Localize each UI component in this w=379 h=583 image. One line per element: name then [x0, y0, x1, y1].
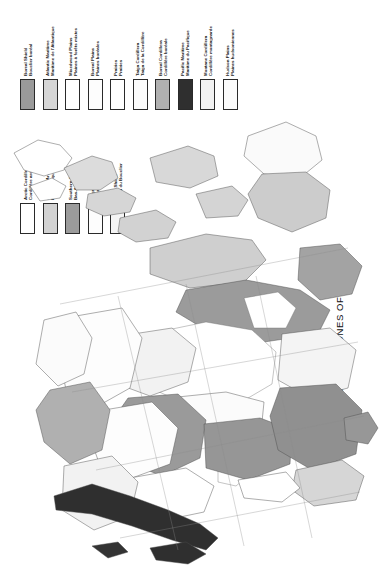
region-northern-arctic-isl-b — [86, 188, 136, 216]
arctic-archipelago-group — [14, 140, 266, 288]
legend-label: Boreal Plains Plaines boréales — [90, 4, 100, 76]
legend-item-montane-cordillera[interactable]: Montane Cordillera Cordillère montagnard… — [197, 4, 218, 110]
legend-label: Boreal Cordillera Cordillère boréale — [158, 4, 168, 76]
map-poster: Boreal Shield Bouclier boréal Atlantic M… — [0, 0, 379, 583]
legend-label: Taiga Cordillera Taïga de la Cordillère — [135, 4, 145, 76]
canada-ecozone-map — [0, 98, 379, 583]
region-pacific-maritime-haida — [92, 542, 128, 558]
region-northern-arctic-baffin — [248, 172, 330, 232]
region-northern-arctic-mainland — [150, 234, 266, 288]
legend-item-hudson-plains[interactable]: Hudson Plains Plaines hudsoniennes — [220, 4, 241, 110]
legend-item-taiga-cordillera[interactable]: Taiga Cordillera Taïga de la Cordillère — [130, 4, 151, 110]
region-northern-arctic-isl-e — [196, 186, 248, 218]
legend-item-boreal-shield[interactable]: Boreal Shield Bouclier boréal — [17, 4, 38, 110]
legend-item-pacific-maritime[interactable]: Pacific Maritime Maritime du Pacifique — [175, 4, 196, 110]
legend-label: Pacific Maritime Maritime du Pacifique — [180, 4, 190, 76]
legend-label: Mixedwood Plains Plaines à forêts mixtes — [68, 4, 78, 76]
legend-item-prairies[interactable]: Prairies Prairies — [107, 4, 128, 110]
region-northern-arctic-isl-c — [118, 210, 176, 242]
legend-label: Prairies Prairies — [113, 4, 123, 76]
legend-item-boreal-cordillera[interactable]: Boreal Cordillera Cordillère boréale — [152, 4, 173, 110]
legend-label: Boreal Shield Bouclier boréal — [23, 4, 33, 76]
legend-item-mixedwood-plains[interactable]: Mixedwood Plains Plaines à forêts mixtes — [62, 4, 83, 110]
region-newfoundland — [344, 412, 378, 444]
primary-ecozone-legend: Boreal Shield Bouclier boréal Atlantic M… — [17, 4, 242, 110]
region-atlantic-maritime — [292, 460, 364, 506]
legend-item-boreal-plains[interactable]: Boreal Plains Plaines boréales — [85, 4, 106, 110]
region-southern-arctic-east — [298, 244, 362, 300]
legend-label: Atlantic Maritime Maritime de l'Atlantiq… — [45, 4, 55, 76]
region-arctic-cordillera — [14, 140, 72, 176]
region-arctic-cordillera-2 — [30, 178, 66, 201]
eastern-arctic-group — [244, 122, 330, 232]
map-svg — [0, 98, 379, 583]
region-arctic-cordillera-baffin — [244, 122, 322, 178]
legend-label: Hudson Plains Plaines hudsoniennes — [225, 4, 235, 76]
region-northern-arctic-isl-a — [64, 156, 118, 190]
legend-item-atlantic-maritime[interactable]: Atlantic Maritime Maritime de l'Atlantiq… — [40, 4, 61, 110]
legend-label: Montane Cordillera Cordillère montagnard… — [203, 4, 213, 76]
region-northern-arctic-isl-d — [150, 146, 218, 188]
